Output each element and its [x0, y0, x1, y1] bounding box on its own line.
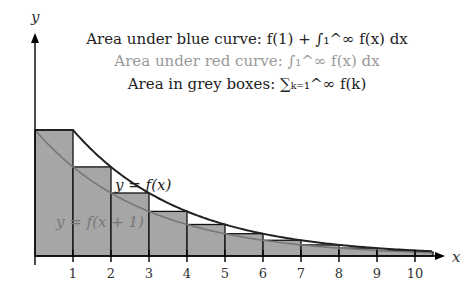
svg-text:5: 5	[221, 266, 229, 281]
lower-curve-label: y = f(x + 1)	[55, 213, 144, 231]
grey-boxes	[35, 130, 433, 256]
svg-text:7: 7	[297, 266, 305, 281]
diagram: 12345678910 x y y = f(x) y = f(x + 1) Ar…	[0, 0, 474, 295]
x-axis-arrow-icon	[435, 252, 445, 260]
svg-text:2: 2	[107, 266, 115, 281]
svg-text:10: 10	[407, 266, 424, 281]
y-axis-label: y	[30, 8, 40, 26]
svg-text:4: 4	[183, 266, 191, 281]
svg-text:9: 9	[373, 266, 381, 281]
x-axis-label: x	[452, 248, 461, 266]
legend-grey-text: Area in grey boxes: ∑ₖ₌₁^∞ f(k)	[0, 75, 474, 93]
legend-blue-text: Area under blue curve: f(1) + ∫₁^∞ f(x) …	[0, 30, 474, 48]
legend-red-text: Area under red curve: ∫₁^∞ f(x) dx	[0, 52, 474, 70]
upper-curve-label: y = f(x)	[114, 176, 171, 194]
svg-text:1: 1	[69, 266, 77, 281]
svg-text:3: 3	[145, 266, 153, 281]
svg-text:6: 6	[259, 266, 267, 281]
svg-text:8: 8	[335, 266, 343, 281]
